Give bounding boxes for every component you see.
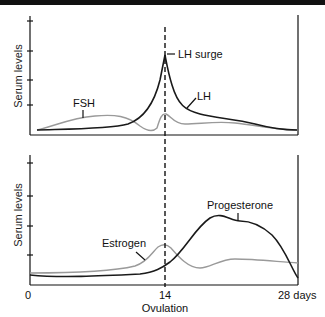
hormone-chart: FSH LH LH surge Serum levels Estrogen Pr… [0, 0, 325, 317]
lh-surge-label: LH surge [178, 48, 223, 60]
x-tick-0: 0 [25, 289, 31, 301]
x-tick-14: 14 [159, 289, 171, 301]
bottom-panel-axes [27, 155, 298, 285]
lh-label: LH [197, 90, 211, 102]
top-panel-axes [27, 15, 298, 135]
estrogen-label: Estrogen [102, 237, 146, 249]
top-y-axis-label: Serum levels [12, 44, 24, 108]
progesterone-label: Progesterone [207, 199, 273, 211]
fsh-curve [37, 114, 297, 131]
estrogen-pointer [136, 252, 145, 260]
estrogen-curve [30, 245, 298, 273]
lh-pointer [187, 98, 196, 108]
progesterone-curve [30, 216, 298, 278]
bottom-y-axis-label: Serum levels [12, 183, 24, 247]
x-tick-28: 28 days [278, 289, 317, 301]
ovulation-label: Ovulation [142, 302, 188, 314]
fsh-label: FSH [73, 97, 95, 109]
